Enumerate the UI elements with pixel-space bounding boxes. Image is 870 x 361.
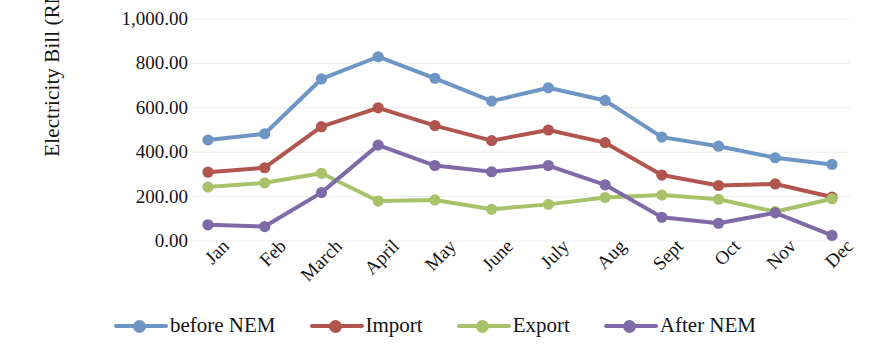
data-point-marker [543,124,554,135]
data-point-marker [373,102,384,113]
data-point-marker [202,167,213,178]
data-point-marker [826,159,837,170]
data-point-marker [316,168,327,179]
data-point-marker [486,204,497,215]
legend-label: Export [513,315,570,336]
data-point-marker [543,82,554,93]
data-point-marker [259,128,270,139]
y-axis-tick-label: 1,000.00 [122,9,189,28]
x-axis-tick-label: July [537,236,573,272]
electricity-bill-line-chart: Electricity Bill (RM) 1,000.00800.00600.… [0,0,870,361]
data-point-marker [713,194,724,205]
data-point-marker [316,73,327,84]
data-point-marker [713,218,724,229]
data-point-marker [599,137,610,148]
legend-item[interactable]: Export [457,315,570,336]
data-point-marker [770,178,781,189]
plot-svg [190,10,850,242]
data-point-marker [429,120,440,131]
legend-label: Import [366,315,423,336]
legend-label: before NEM [170,315,276,336]
data-point-marker [599,95,610,106]
data-point-marker [316,187,327,198]
y-axis-title: Electricity Bill (RM) [40,0,65,183]
data-point-marker [486,166,497,177]
data-point-marker [429,73,440,84]
x-axis-tick-label: June [478,236,516,274]
data-point-marker [373,139,384,150]
series-lines [208,57,832,236]
legend-label: After NEM [660,315,756,336]
x-axis-tick-label: Dec [821,236,856,271]
legend-item[interactable]: before NEM [114,315,276,336]
legend-color-swatch [114,318,168,334]
y-axis-tick-label: 400.00 [136,142,188,161]
data-point-marker [429,194,440,205]
x-axis-tick-label: Nov [763,236,800,273]
data-point-marker [486,135,497,146]
x-axis-tick-label: Oct [710,236,743,269]
data-point-marker [770,152,781,163]
chart-legend: before NEMImportExportAfter NEM [0,315,870,336]
x-axis-tick-label: Sept [649,236,686,273]
plot-area [190,10,850,242]
data-point-marker [373,195,384,206]
y-axis-tick-labels: 1,000.00800.00600.00400.00200.000.00 [96,0,188,250]
data-point-marker [202,134,213,145]
data-point-marker [543,160,554,171]
data-point-marker [656,132,667,143]
data-point-marker [543,199,554,210]
data-point-marker [656,212,667,223]
data-point-marker [259,221,270,232]
series-line [208,57,832,165]
data-point-marker [259,177,270,188]
data-point-marker [373,51,384,62]
data-point-marker [599,179,610,190]
x-axis-tick-label: Aug [593,236,630,273]
legend-item[interactable]: After NEM [604,315,756,336]
x-axis-tick-label: Jan [201,236,232,267]
data-point-marker [713,180,724,191]
data-point-marker [656,169,667,180]
legend-color-swatch [457,318,511,334]
data-point-marker [202,219,213,230]
data-point-marker [770,207,781,218]
y-axis-tick-label: 0.00 [155,231,188,250]
x-axis-tick-labels: JanFebMarchAprilMayJuneJulyAugSeptOctNov… [190,236,850,306]
x-axis-tick-label: April [361,236,403,278]
legend-item[interactable]: Import [310,315,423,336]
x-axis-tick-label: May [421,236,459,274]
data-point-marker [429,160,440,171]
data-point-marker [486,96,497,107]
data-point-marker [826,193,837,204]
data-point-marker [599,192,610,203]
y-axis-tick-label: 600.00 [136,98,188,117]
data-point-marker [316,121,327,132]
y-axis-tick-label: 200.00 [136,187,188,206]
x-axis-tick-label: March [297,236,346,285]
data-point-marker [656,189,667,200]
legend-color-swatch [310,318,364,334]
data-point-marker [713,141,724,152]
series-line [208,145,832,235]
data-point-marker [259,162,270,173]
data-point-marker [202,181,213,192]
y-axis-tick-label: 800.00 [136,53,188,72]
legend-color-swatch [604,318,658,334]
x-axis-tick-label: Feb [256,236,290,270]
